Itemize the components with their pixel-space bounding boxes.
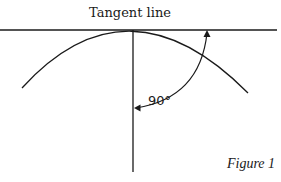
tangent-line-title: Tangent line xyxy=(89,5,171,20)
figure-caption: Figure 1 xyxy=(226,156,275,171)
arrowhead-left-icon xyxy=(134,105,141,112)
diagram-svg: Tangent line 90° Figure 1 xyxy=(0,0,281,182)
arrowhead-up-icon xyxy=(204,30,211,37)
right-angle-arrow xyxy=(136,33,207,108)
angle-label: 90° xyxy=(148,93,171,108)
diagram-canvas: Tangent line 90° Figure 1 xyxy=(0,0,281,182)
circle-arc xyxy=(22,31,248,93)
